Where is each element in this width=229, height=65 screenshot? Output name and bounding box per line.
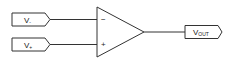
non-inverting-pin-symbol: + — [101, 40, 106, 49]
input-tag-inverting: V- — [12, 13, 50, 26]
input-tag-non-inverting: V+ — [12, 38, 50, 51]
inverting-pin-symbol: − — [101, 15, 106, 24]
op-amp-symbol: − + — [97, 7, 144, 57]
output-tag: VOUT — [185, 26, 222, 39]
op-amp-diagram: V- V+ − + VOUT — [0, 0, 229, 65]
